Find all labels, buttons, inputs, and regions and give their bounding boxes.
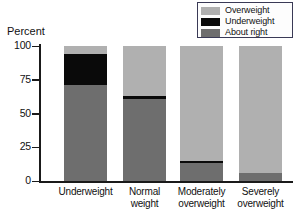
y-tick-label-25: 25 [3, 141, 31, 152]
y-tick-label-50: 50 [3, 108, 31, 119]
y-tick-25: 25 [0, 141, 40, 153]
y-tick-mark-100 [32, 46, 40, 48]
bar-segment-about-right [180, 163, 223, 181]
y-tick-75: 75 [0, 74, 40, 86]
legend-swatch-about-right [201, 29, 220, 37]
y-tick-50: 50 [0, 108, 40, 120]
y-tick-label-0: 0 [3, 175, 31, 186]
legend-label-about-right: About right [225, 28, 267, 37]
legend-item-about-right: About right [201, 27, 290, 38]
bar-segment-overweight [180, 46, 223, 161]
legend-swatch-underweight [201, 18, 220, 26]
bar-segment-about-right [239, 173, 282, 181]
x-axis-line [39, 181, 293, 183]
x-axis-label-line: overweight [225, 198, 297, 210]
stacked-bar-chart: Overweight Underweight About right Perce… [0, 0, 296, 222]
legend-item-overweight: Overweight [201, 5, 290, 16]
y-axis-ticks: 1007550250 [0, 0, 40, 222]
bar-normal-weight[interactable] [123, 46, 166, 181]
bar-moderately-overweight[interactable] [180, 46, 223, 181]
bar-underweight[interactable] [64, 46, 107, 181]
bar-segment-overweight [64, 46, 107, 54]
legend-swatch-overweight [201, 7, 220, 15]
legend-label-overweight: Overweight [225, 6, 270, 15]
bar-segment-about-right [123, 99, 166, 181]
y-tick-label-75: 75 [3, 74, 31, 85]
plot-area [40, 46, 292, 181]
y-tick-0: 0 [0, 175, 40, 187]
bar-segment-about-right [64, 85, 107, 181]
y-tick-mark-25 [32, 147, 40, 149]
bar-segment-underweight [64, 54, 107, 85]
x-axis-label-line: Severely [225, 186, 297, 198]
x-axis-label-3: Severelyoverweight [225, 186, 297, 209]
y-tick-100: 100 [0, 40, 40, 52]
y-tick-mark-75 [32, 79, 40, 81]
legend-label-underweight: Underweight [225, 17, 274, 26]
bar-segment-overweight [123, 46, 166, 96]
legend-item-underweight: Underweight [201, 16, 290, 27]
chart-legend: Overweight Underweight About right [197, 2, 293, 38]
bar-severely-overweight[interactable] [239, 46, 282, 181]
bar-segment-overweight [239, 46, 282, 173]
y-tick-mark-50 [32, 113, 40, 115]
y-tick-label-100: 100 [3, 40, 31, 51]
y-tick-mark-0 [32, 181, 40, 183]
